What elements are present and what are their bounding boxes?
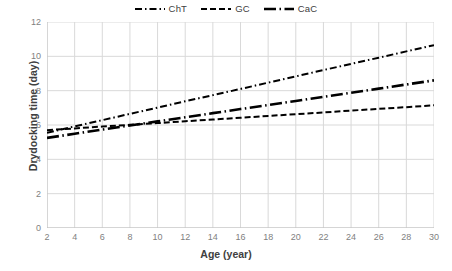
x-tick-label: 24 <box>346 232 356 242</box>
x-tick-label: 14 <box>208 232 218 242</box>
x-tick-label: 16 <box>235 232 245 242</box>
x-tick-label: 12 <box>180 232 190 242</box>
x-tick-label: 20 <box>291 232 301 242</box>
y-axis-title: Drydocking time (day) <box>27 36 39 196</box>
x-tick-label: 10 <box>153 232 163 242</box>
x-tick-label: 2 <box>44 232 49 242</box>
x-tick-label: 22 <box>318 232 328 242</box>
legend-item-cac: CaC <box>264 4 318 14</box>
x-tick-label: 26 <box>374 232 384 242</box>
plot-area <box>47 22 434 228</box>
x-axis-title: Age (year) <box>0 248 452 260</box>
x-tick-label: 30 <box>429 232 439 242</box>
legend-item-gc: GC <box>201 4 250 14</box>
legend-label-cht: ChT <box>169 4 188 14</box>
x-tick-label: 18 <box>263 232 273 242</box>
y-tick-label: 0 <box>20 223 41 233</box>
x-tick-label: 8 <box>127 232 132 242</box>
legend-label-cac: CaC <box>298 4 318 14</box>
y-tick-label: 12 <box>20 17 41 27</box>
gridlines <box>47 22 434 228</box>
plot-svg <box>47 22 434 228</box>
chart-container: ChT GC CaC 024681012 2468101214161820222… <box>0 0 452 271</box>
x-tick-label: 4 <box>72 232 77 242</box>
legend-item-cht: ChT <box>135 4 188 14</box>
legend-swatch-cht <box>135 4 165 14</box>
legend-swatch-gc <box>201 4 231 14</box>
legend-swatch-cac <box>264 4 294 14</box>
legend-label-gc: GC <box>235 4 250 14</box>
chart-legend: ChT GC CaC <box>0 4 452 14</box>
x-tick-label: 6 <box>100 232 105 242</box>
x-tick-label: 28 <box>401 232 411 242</box>
